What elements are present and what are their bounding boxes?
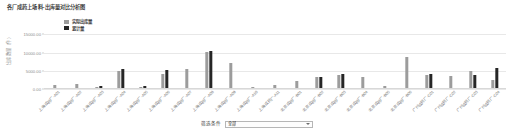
filter-select-value: 全部 — [228, 121, 236, 127]
chart-dashboard: 各厂成药上场料-出库量对比分析图 0.005000.0010000.001500… — [0, 0, 513, 132]
bar-group[interactable] — [273, 85, 276, 88]
bar-group[interactable] — [53, 85, 56, 88]
chevron-down-icon — [306, 123, 310, 125]
x-axis-tick-label: 上海成药厂-A08 — [192, 90, 215, 113]
bar-group[interactable] — [229, 63, 232, 88]
x-axis-tick-label: 上海成药厂-A11 — [258, 90, 281, 113]
bar-group[interactable] — [491, 68, 498, 88]
bar[interactable] — [95, 87, 98, 88]
bar[interactable] — [121, 69, 124, 88]
bar-group[interactable] — [161, 70, 168, 88]
x-axis-labels: 上海成药厂-A01上海成药厂-A02上海成药厂-A03上海成药厂-A04上海成药… — [44, 90, 506, 114]
bar-group[interactable] — [295, 81, 298, 88]
legend-label: 累计量 — [72, 26, 84, 31]
bar[interactable] — [99, 86, 102, 88]
x-axis-tick-label: 上海成药厂-A07 — [170, 90, 193, 113]
bars-layer — [44, 16, 506, 89]
y-axis-title: 出库数量（件） — [6, 35, 11, 65]
bar[interactable] — [491, 80, 494, 88]
bar[interactable] — [117, 71, 120, 88]
bar-group[interactable] — [337, 74, 344, 88]
bar[interactable] — [139, 87, 142, 88]
bar[interactable] — [143, 86, 146, 88]
bar[interactable] — [473, 75, 476, 88]
x-axis-tick-label: 上海成药厂-A01 — [38, 90, 61, 113]
bar[interactable] — [449, 76, 452, 88]
legend-item[interactable]: 实际出库量 — [64, 19, 92, 24]
bar[interactable] — [209, 51, 212, 88]
bar[interactable] — [251, 87, 254, 88]
bar[interactable] — [361, 77, 364, 88]
x-axis-tick-label: 北京成药厂-B06 — [390, 90, 413, 113]
legend-item[interactable]: 累计量 — [64, 26, 92, 31]
y-axis-tick-mark — [42, 70, 44, 71]
bar[interactable] — [75, 84, 78, 88]
bar[interactable] — [425, 75, 428, 88]
bar-group[interactable] — [95, 86, 102, 88]
bar[interactable] — [273, 85, 276, 88]
bar-group[interactable] — [117, 69, 124, 88]
x-axis-tick-label: 广州成药厂-C04 — [478, 90, 501, 113]
bar[interactable] — [495, 68, 498, 88]
legend-swatch-icon — [64, 20, 69, 24]
bar-group[interactable] — [449, 76, 452, 88]
bar-group[interactable] — [469, 71, 476, 88]
bar[interactable] — [205, 52, 208, 88]
y-axis-tick-mark — [42, 34, 44, 35]
bar[interactable] — [185, 69, 188, 88]
bar-group[interactable] — [75, 84, 78, 88]
x-axis-tick-label: 上海成药厂-A05 — [126, 90, 149, 113]
bar-group[interactable] — [185, 69, 188, 88]
bar[interactable] — [405, 57, 408, 88]
y-axis-tick-mark — [42, 52, 44, 53]
x-axis-tick-label: 上海成药厂-A06 — [148, 90, 171, 113]
filter-select[interactable]: 全部 — [225, 121, 313, 129]
bar-group[interactable] — [425, 74, 432, 88]
x-axis-tick-label: 北京成药厂-B03 — [324, 90, 347, 113]
x-axis-tick-label: 北京成药厂-B05 — [368, 90, 391, 113]
x-axis-tick-label: 上海成药厂-A10 — [236, 90, 259, 113]
bar[interactable] — [319, 77, 322, 88]
bar[interactable] — [165, 70, 168, 88]
bar[interactable] — [53, 85, 56, 88]
page-title: 各厂成药上场料-出库量对比分析图 — [7, 4, 85, 11]
filter-label: 筛选条件 — [201, 121, 221, 127]
y-axis-tick-label: 5000.00 — [26, 68, 41, 73]
x-axis-tick-label: 广州成药厂-C02 — [434, 90, 457, 113]
bar[interactable] — [295, 81, 298, 88]
x-axis-tick-label: 广州成药厂-C03 — [456, 90, 479, 113]
bar-group[interactable] — [251, 87, 254, 88]
bar[interactable] — [429, 74, 432, 88]
bar[interactable] — [469, 71, 472, 88]
y-axis-tick-label: 15000.00 — [24, 32, 41, 37]
bar[interactable] — [337, 75, 340, 88]
x-axis-tick-label: 上海成药厂-A04 — [104, 90, 127, 113]
chart-legend: 实际出库量 累计量 — [64, 19, 92, 31]
filter-bar: 筛选条件 全部 — [0, 121, 513, 129]
x-axis-tick-label: 北京成药厂-B04 — [346, 90, 369, 113]
bar-group[interactable] — [383, 86, 386, 88]
plot-area: 0.005000.0010000.0015000.00 — [44, 16, 506, 89]
bar[interactable] — [229, 63, 232, 88]
y-axis-tick-label: 0.00 — [33, 87, 41, 92]
x-axis-tick-label: 北京成药厂-B02 — [302, 90, 325, 113]
bar-group[interactable] — [205, 51, 212, 88]
legend-label: 实际出库量 — [72, 19, 92, 24]
bar[interactable] — [383, 86, 386, 88]
bar-group[interactable] — [139, 86, 146, 88]
bar[interactable] — [315, 77, 318, 88]
bar-group[interactable] — [361, 77, 364, 88]
bar-group[interactable] — [315, 77, 322, 88]
legend-swatch-icon — [64, 26, 69, 30]
x-axis-tick-label: 广州成药厂-C01 — [412, 90, 435, 113]
y-axis-tick-label: 10000.00 — [24, 50, 41, 55]
bar[interactable] — [341, 74, 344, 88]
x-axis-tick-label: 上海成药厂-A09 — [214, 90, 237, 113]
x-axis-tick-label: 上海成药厂-A02 — [60, 90, 83, 113]
x-axis-tick-label: 北京成药厂-B01 — [280, 90, 303, 113]
bar-group[interactable] — [405, 57, 408, 88]
bar[interactable] — [161, 74, 164, 88]
x-axis-tick-label: 上海成药厂-A03 — [82, 90, 105, 113]
